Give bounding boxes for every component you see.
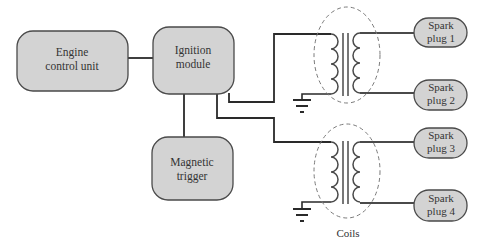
- spark-plug-2-label-line2: plug 2: [427, 94, 455, 106]
- coils-label: Coils: [336, 227, 359, 239]
- spark-plug-4: Spark plug 4: [414, 190, 467, 221]
- spark-plug-3: Spark plug 3: [414, 128, 467, 158]
- ecu-label-line1: Engine: [56, 46, 89, 59]
- spark-plug-3-label-line2: plug 3: [427, 142, 455, 154]
- primary-winding-icon: [331, 142, 338, 202]
- magnetic-trigger-label-line2: trigger: [177, 170, 208, 183]
- ignition-coil-1: [302, 33, 360, 99]
- ignition-module-label-line2: module: [176, 58, 211, 70]
- ignition-module-block: Ignition module: [153, 27, 234, 94]
- ground-icon: [293, 100, 311, 112]
- spark-plug-2-label-line1: Spark: [428, 81, 454, 93]
- engine-control-unit-block: Engine control unit: [17, 31, 128, 91]
- primary-winding-icon: [331, 34, 338, 94]
- secondary-winding-icon: [353, 33, 360, 93]
- coil2-ground-wire: [302, 202, 331, 208]
- spark-plug-3-label-line1: Spark: [428, 129, 454, 141]
- secondary-winding-icon: [353, 142, 360, 202]
- spark-plug-1: Spark plug 1: [414, 18, 467, 47]
- coil1-ground-wire: [302, 94, 331, 99]
- ignition-module-label-line1: Ignition: [175, 44, 212, 57]
- spark-plug-4-label-line1: Spark: [428, 192, 454, 204]
- coil1-dashed-outline: [314, 7, 380, 103]
- spark-plug-4-label-line2: plug 4: [427, 205, 455, 217]
- secondary-wires: [360, 33, 414, 203]
- ignition-coil-2: [302, 141, 360, 208]
- magnetic-trigger-label-line1: Magnetic: [170, 156, 213, 169]
- ecu-label-line2: control unit: [45, 60, 99, 72]
- ground-icon: [293, 209, 311, 221]
- spark-plug-1-label-line1: Spark: [428, 19, 454, 31]
- spark-plug-1-label-line2: plug 1: [427, 32, 455, 44]
- magnetic-trigger-block: Magnetic trigger: [152, 137, 233, 200]
- spark-plug-2: Spark plug 2: [414, 80, 467, 110]
- ignition-system-diagram: Coils Engine control unit Ignition modul…: [0, 0, 486, 249]
